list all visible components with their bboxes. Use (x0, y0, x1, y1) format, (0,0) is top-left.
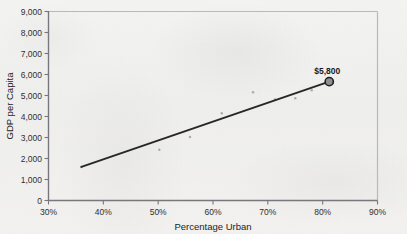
chart-plot-svg: 01,0002,0003,0004,0005,0006,0007,0008,00… (0, 0, 407, 234)
y-axis-ticks: 01,0002,0003,0004,0005,0006,0007,0008,00… (21, 7, 49, 206)
y-tick-label: 3,000 (21, 133, 43, 143)
scatter-point (221, 112, 224, 115)
y-tick-label: 0 (37, 196, 42, 206)
scatter-point (189, 136, 192, 139)
x-tick-label: 40% (95, 207, 112, 217)
chart-figure: 01,0002,0003,0004,0005,0006,0007,0008,00… (0, 0, 407, 234)
y-tick-label: 7,000 (21, 49, 43, 59)
y-tick-label: 4,000 (21, 112, 43, 122)
scatter-point (310, 89, 313, 92)
y-tick-label: 5,000 (21, 91, 43, 101)
plot-axes (48, 11, 378, 201)
x-tick-label: 30% (40, 207, 57, 217)
trend-line-layer (81, 82, 329, 167)
highlighted-data-point-marker (325, 78, 333, 86)
x-tick-label: 70% (259, 207, 276, 217)
x-tick-label: 90% (369, 207, 386, 217)
x-axis-title: Percentage Urban (174, 221, 251, 232)
y-tick-label: 6,000 (21, 70, 43, 80)
x-axis-ticks: 30%40%50%60%70%80%90% (40, 201, 386, 218)
trend-line (81, 82, 329, 167)
y-tick-label: 8,000 (21, 28, 43, 38)
highlight-marker-layer: $5,800 (314, 66, 340, 86)
highlighted-data-point-label: $5,800 (314, 66, 340, 76)
scatter-point (294, 97, 297, 100)
scatter-point (252, 91, 255, 94)
plot-frame (49, 12, 378, 201)
x-tick-label: 50% (150, 207, 167, 217)
y-axis-title: GDP per Capita (4, 72, 15, 140)
y-tick-label: 9,000 (21, 7, 43, 17)
scatter-point (158, 148, 161, 151)
y-tick-label: 1,000 (21, 175, 43, 185)
x-tick-label: 80% (314, 207, 331, 217)
x-tick-label: 60% (204, 207, 221, 217)
y-tick-label: 2,000 (21, 154, 43, 164)
